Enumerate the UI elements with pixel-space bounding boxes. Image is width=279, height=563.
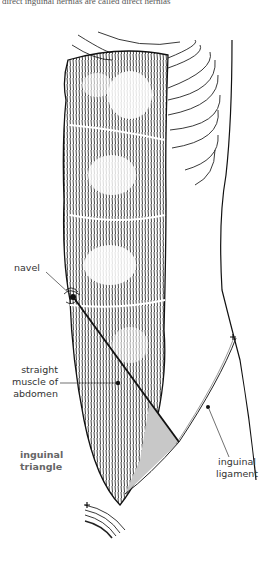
inguinal-triangle-label: inguinal triangle [20, 449, 63, 473]
navel-label: navel [14, 262, 40, 274]
straight-muscle-label-line3: abdomen [0, 388, 58, 400]
straight-muscle-dot [116, 381, 120, 385]
inguinal-ligament-dot [206, 405, 210, 409]
inguinal-ligament-label: inguinal ligament [216, 456, 258, 480]
flank-outline [221, 40, 256, 480]
inguinal-ligament-label-line1: inguinal [216, 456, 258, 468]
pubic-mark-icon [84, 502, 90, 508]
inguinal-ligament-label-line2: ligament [216, 468, 258, 480]
pubic-arcs [85, 505, 125, 538]
straight-muscle-label: straight muscle of abdomen [0, 364, 58, 400]
straight-muscle-label-line2: muscle of [0, 376, 58, 388]
inguinal-ligament-leader [209, 409, 229, 457]
inguinal-triangle-label-line1: inguinal [20, 449, 63, 461]
straight-muscle-label-line1: straight [0, 364, 58, 376]
inguinal-triangle-label-line2: triangle [20, 461, 63, 473]
